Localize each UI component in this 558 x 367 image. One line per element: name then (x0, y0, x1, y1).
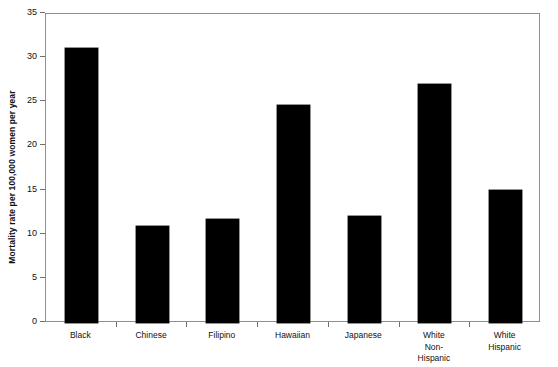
x-axis-label: Black (45, 330, 116, 342)
bar (348, 216, 381, 323)
x-axis-label: White Hispanic (469, 330, 540, 353)
x-tick-mark (186, 322, 187, 327)
y-tick-label: 20 (27, 139, 37, 149)
bar (65, 48, 98, 323)
x-tick-mark (399, 322, 400, 327)
bar (206, 219, 239, 323)
bar-chart-figure: Mortality rate per 100,000 women per yea… (0, 0, 558, 367)
x-tick-mark (469, 322, 470, 327)
y-tick-label: 5 (32, 272, 37, 282)
x-axis-label: Filipino (186, 330, 257, 342)
bar (489, 190, 522, 323)
x-tick-mark (328, 322, 329, 327)
x-axis-label: Chinese (116, 330, 187, 342)
y-tick-label: 15 (27, 184, 37, 194)
y-tick-label: 10 (27, 228, 37, 238)
x-axis-label: Hawaiian (257, 330, 328, 342)
plot-area (45, 13, 540, 322)
y-tick-label: 30 (27, 51, 37, 61)
bar (277, 105, 310, 323)
bar (136, 226, 169, 323)
x-axis-label: Japanese (328, 330, 399, 342)
y-tick-label: 0 (32, 316, 37, 326)
x-axis-label: White Non- Hispanic (399, 330, 470, 365)
y-tick-label: 35 (27, 7, 37, 17)
x-tick-mark (116, 322, 117, 327)
y-axis-title: Mortality rate per 100,000 women per yea… (7, 57, 17, 297)
y-tick-label: 25 (27, 95, 37, 105)
bar (418, 84, 451, 323)
x-tick-mark (257, 322, 258, 327)
